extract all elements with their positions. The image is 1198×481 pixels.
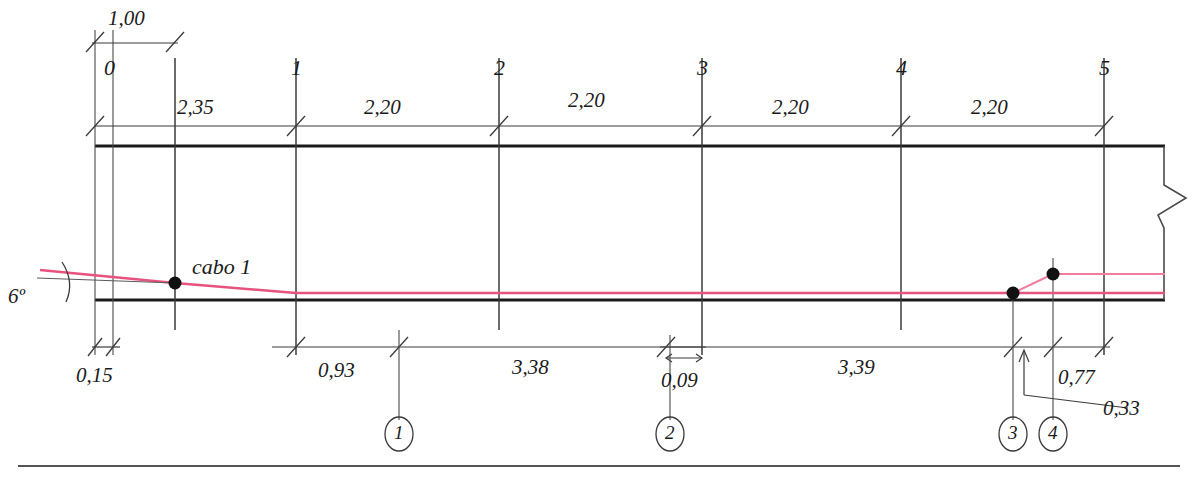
grid-label-1: 1 (291, 55, 302, 81)
grid-label-4: 4 (896, 55, 907, 81)
dim-label-top-3: 2,20 (772, 95, 809, 120)
cable-nodes (169, 268, 1060, 300)
dim-label-0-15: 0,15 (76, 363, 113, 388)
dim-label-0-77: 0,77 (1058, 365, 1095, 390)
anchor-label-4: 4 (1048, 422, 1058, 444)
dim-label-top-1: 2,20 (364, 95, 401, 120)
anchor-label-3: 3 (1008, 422, 1018, 444)
dim-label-3-38: 3,38 (512, 355, 549, 380)
angle-label: 6º (8, 284, 25, 309)
dim-label-0-93: 0,93 (318, 358, 355, 383)
dim-label-top-4: 2,20 (971, 95, 1008, 120)
grid-label-0: 0 (104, 55, 115, 81)
grid-label-5: 5 (1099, 55, 1110, 81)
angle-indicator (37, 262, 175, 302)
dim-label-span-1-00: 1,00 (108, 6, 145, 31)
dim-label-3-39: 3,39 (838, 355, 875, 380)
anchor-markers (385, 417, 1067, 451)
dim-label-top-2: 2,20 (568, 88, 605, 113)
anchor-label-2: 2 (665, 422, 675, 444)
top-dimension-lines (86, 32, 1113, 136)
cable-node-a (169, 277, 182, 290)
drawing-vectors (0, 0, 1198, 481)
dim-label-0-09: 0,09 (661, 368, 698, 393)
drawing-canvas: 1,00 0 1 2 3 4 5 2,35 2,20 2,20 2,20 2,2… (0, 0, 1198, 481)
grid-label-3: 3 (697, 55, 708, 81)
bottom-dimension-lines (88, 258, 1128, 420)
grid-label-2: 2 (494, 55, 505, 81)
cable-node-b (1007, 287, 1020, 300)
dim-label-0-33: 0,33 (1103, 396, 1140, 421)
grid-lines (95, 30, 1104, 355)
break-symbol-icon (1158, 146, 1186, 300)
anchor-label-1: 1 (394, 422, 404, 444)
cable-label: cabo 1 (192, 254, 251, 280)
cable-node-c (1047, 268, 1060, 281)
dim-label-2-35: 2,35 (177, 95, 214, 120)
beam-outline (95, 146, 1165, 300)
